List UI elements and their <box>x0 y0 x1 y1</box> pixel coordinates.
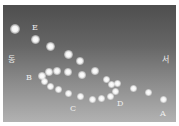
position-dot <box>112 88 119 95</box>
position-dot <box>130 85 137 92</box>
direction-west-label: 서 <box>162 56 169 64</box>
position-dot <box>89 96 96 103</box>
position-dot <box>64 50 73 59</box>
position-dot <box>98 95 105 102</box>
position-dot <box>10 24 20 34</box>
sky-diagram-frame <box>3 5 176 122</box>
position-dot <box>47 83 54 90</box>
position-dot <box>45 68 53 76</box>
position-dot <box>160 96 167 103</box>
position-dot <box>41 78 48 85</box>
position-dot <box>55 86 62 93</box>
direction-east-label: 동 <box>8 56 15 64</box>
position-dot <box>91 67 99 75</box>
point-label-e: E <box>32 24 38 32</box>
position-dot <box>103 76 110 83</box>
position-dot <box>31 35 40 44</box>
position-dot <box>46 42 55 51</box>
point-label-a: A <box>160 110 166 118</box>
position-dot <box>64 68 72 76</box>
position-dot <box>78 71 86 79</box>
position-dot <box>114 80 121 87</box>
position-dot <box>53 67 61 75</box>
position-dot <box>76 57 84 65</box>
position-dot <box>77 93 84 100</box>
point-label-d: D <box>117 100 123 108</box>
point-label-c: C <box>70 105 76 113</box>
position-dot <box>145 89 152 96</box>
point-label-b: B <box>26 74 32 82</box>
position-dot <box>65 90 72 97</box>
